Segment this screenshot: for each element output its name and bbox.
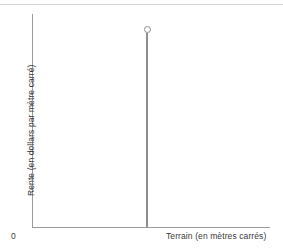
origin-tick-label: 0 <box>11 231 16 241</box>
y-axis-label: Rente (en dollars par mètre carré) <box>26 16 36 196</box>
x-axis-line <box>32 227 270 228</box>
x-axis-label: Terrain (en mètres carrés) <box>166 231 266 241</box>
supply-curve-vertical-line <box>146 33 148 227</box>
top-divider-rule <box>0 4 283 5</box>
chart-figure: Rente (en dollars par mètre carré) Terra… <box>0 0 283 251</box>
open-circle-endpoint-icon <box>144 26 151 33</box>
